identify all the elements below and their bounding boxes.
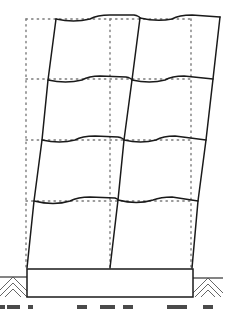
foundation-block bbox=[27, 269, 193, 297]
ground-hatch-stroke bbox=[201, 290, 208, 297]
frame-deformation-diagram bbox=[0, 0, 240, 309]
ground-hatch-stroke bbox=[13, 283, 27, 297]
deformed-beams bbox=[34, 15, 220, 204]
deformed-beam bbox=[42, 136, 124, 142]
diagram-canvas bbox=[0, 0, 240, 309]
ground-hatch-stroke bbox=[13, 277, 27, 291]
caption-text-fragment bbox=[123, 305, 133, 309]
ground-hatch-stroke bbox=[195, 284, 208, 297]
ground-hatch-stroke bbox=[0, 277, 13, 290]
caption-text-fragment bbox=[203, 305, 213, 309]
deformed-column bbox=[110, 18, 140, 268]
deformed-beam bbox=[140, 15, 220, 20]
caption-text-fragment bbox=[100, 305, 115, 309]
ground-hatch-stroke bbox=[208, 284, 221, 297]
caption-clipped bbox=[0, 305, 213, 309]
foundation-rect bbox=[27, 269, 193, 297]
deformed-beam bbox=[34, 197, 118, 204]
deformed-beam bbox=[118, 197, 198, 203]
caption-text-fragment bbox=[0, 305, 5, 309]
ground-hatch-stroke bbox=[208, 290, 215, 297]
ground-hatch-stroke bbox=[0, 283, 13, 296]
deformed-beam bbox=[56, 15, 140, 21]
caption-text-fragment bbox=[28, 305, 33, 309]
ground-hatch-stroke bbox=[193, 278, 208, 293]
caption-text-fragment bbox=[77, 305, 87, 309]
caption-text-fragment bbox=[167, 305, 187, 309]
caption-text-fragment bbox=[7, 305, 20, 309]
ground-hatch-stroke bbox=[208, 278, 223, 293]
deformed-beam bbox=[124, 136, 206, 142]
deformed-column bbox=[192, 17, 220, 268]
deformed-column bbox=[27, 19, 56, 268]
